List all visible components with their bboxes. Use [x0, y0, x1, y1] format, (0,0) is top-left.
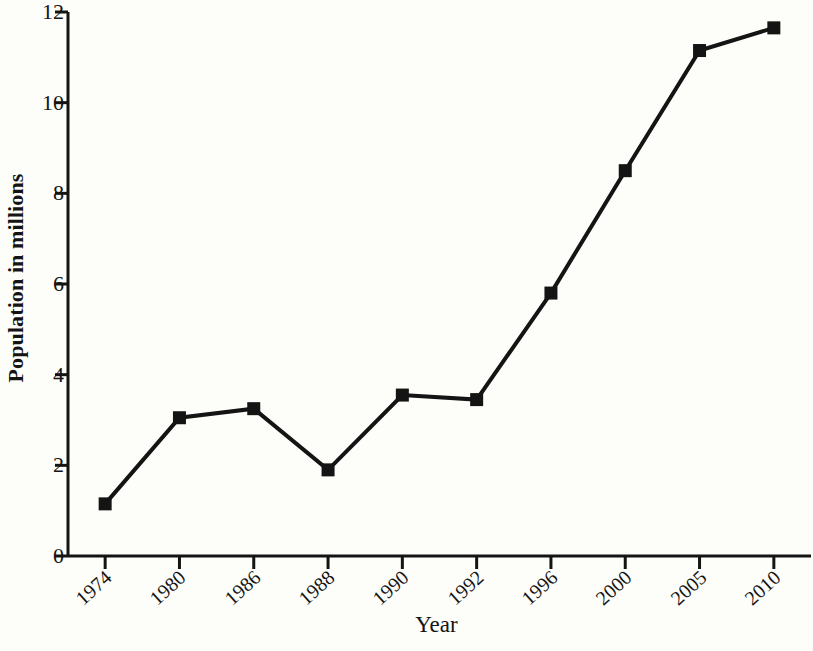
data-point-marker [767, 21, 780, 34]
data-point-marker [99, 497, 112, 510]
data-point-marker [322, 463, 335, 476]
x-axis-ticks [105, 556, 774, 569]
data-line [105, 28, 774, 504]
data-point-marker [619, 164, 632, 177]
data-point-marker [470, 393, 483, 406]
x-axis-title-label: Year [415, 612, 457, 637]
line-chart: Population in millions 024681012 1974198… [0, 0, 813, 651]
data-markers [99, 21, 781, 510]
plot-area [0, 0, 813, 651]
axes [68, 12, 811, 556]
data-point-marker [396, 389, 409, 402]
data-point-marker [247, 402, 260, 415]
data-point-marker [173, 411, 186, 424]
data-point-marker [693, 44, 706, 57]
y-axis-ticks [55, 12, 68, 556]
x-axis-title: Year [0, 612, 813, 638]
data-point-marker [544, 287, 557, 300]
